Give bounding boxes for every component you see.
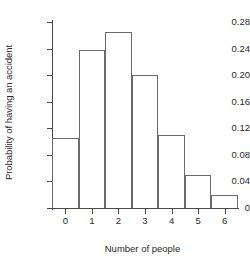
y-axis-title: Probability of having an accident — [0, 0, 16, 225]
x-tick-label: 6 — [215, 216, 235, 226]
x-tick-label: 5 — [188, 216, 208, 226]
x-tick-label: 1 — [82, 216, 102, 226]
x-tick-label: 3 — [135, 216, 155, 226]
x-tick-label: 2 — [108, 216, 128, 226]
histogram-bar — [79, 50, 106, 208]
histogram-bar — [185, 175, 212, 208]
x-tick-label: 0 — [55, 216, 75, 226]
x-axis-title: Number of people — [45, 243, 240, 254]
histogram-bar — [52, 138, 79, 208]
histogram-bar — [105, 32, 132, 208]
histogram-figure: Probability of having an accident 00.040… — [0, 0, 250, 265]
histogram-bar — [211, 195, 238, 208]
x-tick-label: 4 — [162, 216, 182, 226]
histogram-bar — [132, 75, 159, 208]
histogram-bar — [158, 135, 185, 208]
